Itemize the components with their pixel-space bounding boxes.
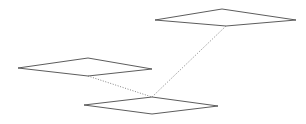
connector-upper-to-lower — [152, 26, 226, 97]
figure-canvas — [0, 0, 306, 124]
connector-left-to-lower — [88, 76, 152, 97]
upper-right-plane — [155, 9, 296, 26]
lower-center-plane — [84, 97, 218, 114]
geometric-figure — [0, 0, 306, 124]
middle-left-plane — [18, 58, 152, 76]
